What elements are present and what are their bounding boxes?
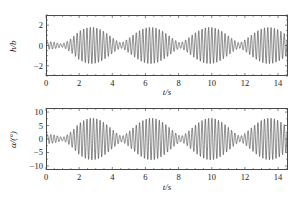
plot-frame-bottom: [46, 108, 288, 170]
x-tick-label: 14: [274, 173, 283, 182]
y-axis-label-top-text: h/b: [8, 38, 18, 52]
panel-top: 02468101214 −202 t/s h/b: [0, 0, 298, 100]
x-tick-label: 2: [77, 79, 81, 88]
x-axis-label-top: t/s: [163, 87, 172, 97]
x-tick-label: 12: [241, 79, 250, 88]
x-tick-label: 8: [176, 79, 180, 88]
x-tick-label: 0: [44, 79, 48, 88]
x-tick-label: 2: [77, 173, 81, 182]
y-tick-label: 2: [39, 21, 43, 30]
y-tick-label: −10: [30, 161, 43, 170]
y-axis-label-bottom: α/(°): [2, 132, 24, 154]
x-tick-label: 10: [208, 173, 217, 182]
panel-bottom: 02468101214 −10−50510 t/s α/(°): [0, 100, 298, 200]
y-axis-label-bottom-text: α/(°): [8, 126, 18, 148]
x-axis-label-top-text: t/s: [163, 87, 172, 97]
waveform-bottom: [47, 109, 287, 169]
figure-container: 02468101214 −202 t/s h/b 02468101214 −10…: [0, 0, 298, 200]
y-tick-label: 0: [39, 135, 43, 144]
x-tick-label: 4: [110, 79, 114, 88]
x-tick-label: 12: [241, 173, 250, 182]
y-axis-label-top: h/b: [6, 40, 20, 54]
x-tick-label: 4: [110, 173, 114, 182]
y-tick-label: 5: [39, 121, 43, 130]
x-tick-label: 0: [44, 173, 48, 182]
y-tick-label: 10: [35, 108, 44, 117]
plot-frame-top: [46, 15, 288, 76]
x-tick-label: 14: [274, 79, 283, 88]
y-tick-label: −2: [34, 61, 43, 70]
x-tick-label: 10: [208, 79, 217, 88]
y-tick-label: 0: [39, 41, 43, 50]
x-tick-label: 8: [176, 173, 180, 182]
y-tick-label: −5: [34, 148, 43, 157]
waveform-top: [47, 16, 287, 75]
x-tick-label: 6: [143, 173, 147, 182]
x-axis-label-bottom: t/s: [163, 182, 172, 192]
x-axis-label-bottom-text: t/s: [163, 182, 172, 192]
x-tick-label: 6: [143, 79, 147, 88]
